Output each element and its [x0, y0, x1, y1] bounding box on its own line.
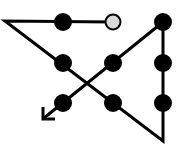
dot-r1c1 — [54, 13, 72, 31]
dot-r3c3 — [154, 94, 172, 112]
dot-r3c1 — [54, 94, 72, 112]
nine-dots-diagram — [0, 0, 185, 144]
solution-path — [5, 21, 163, 141]
dot-start — [106, 15, 121, 30]
dot-r2c2 — [104, 54, 122, 72]
dot-r2c3 — [154, 54, 172, 72]
dot-r2c1 — [54, 54, 72, 72]
dot-r3c2 — [104, 94, 122, 112]
dot-r1c3 — [154, 13, 172, 31]
